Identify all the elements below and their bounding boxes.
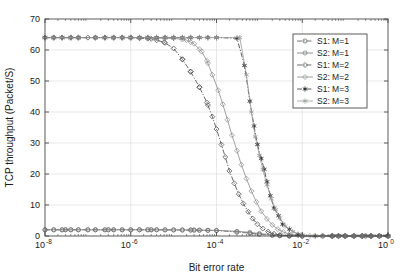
y-tick-label: 10 bbox=[30, 200, 40, 210]
y-tick-label: 20 bbox=[30, 169, 40, 179]
x-tick-exponent: -6 bbox=[132, 238, 138, 245]
y-tick-label: 60 bbox=[30, 45, 40, 55]
legend: S1: M=1S2: M=1S1: M=2S2: M=2S1: M=3S2: M… bbox=[293, 34, 367, 108]
y-axis-label: TCP throughput (Packet/S) bbox=[4, 68, 15, 188]
data-point-marker bbox=[269, 196, 274, 202]
data-point-marker bbox=[253, 134, 258, 140]
x-tick-exponent: -8 bbox=[46, 238, 52, 245]
data-point-marker bbox=[197, 85, 202, 90]
x-tick-label: 10-8 bbox=[35, 238, 52, 250]
x-axis-label: Bit error rate bbox=[189, 262, 245, 273]
data-point-marker bbox=[197, 85, 202, 90]
x-tick-label: 100 bbox=[378, 238, 394, 250]
data-point-marker bbox=[244, 72, 249, 78]
x-tick-exponent: -2 bbox=[303, 238, 309, 245]
x-tick-label: 10-2 bbox=[292, 238, 309, 250]
y-tick-label: 30 bbox=[30, 138, 40, 148]
legend-label: S2: M=3 bbox=[317, 96, 349, 106]
star-core bbox=[304, 88, 307, 91]
legend-label: S1: M=2 bbox=[317, 60, 349, 70]
x-tick-exponent: 0 bbox=[390, 238, 394, 245]
x-tick-base: 10 bbox=[206, 240, 216, 250]
legend-label: S1: M=1 bbox=[317, 36, 349, 46]
x-tick-base: 10 bbox=[292, 240, 302, 250]
y-tick-label: 70 bbox=[30, 14, 40, 24]
x-tick-base: 10 bbox=[121, 240, 131, 250]
chart-canvas: 01020304050607010-810-610-410-2100Bit er… bbox=[0, 0, 407, 276]
x-tick-base: 10 bbox=[378, 240, 388, 250]
x-tick-label: 10-4 bbox=[206, 238, 223, 250]
data-point-marker bbox=[205, 103, 210, 108]
x-tick-base: 10 bbox=[35, 240, 45, 250]
legend-label: S1: M=3 bbox=[317, 84, 349, 94]
x-tick-exponent: -4 bbox=[218, 238, 224, 245]
y-tick-label: 40 bbox=[30, 107, 40, 117]
legend-label: S2: M=2 bbox=[317, 72, 349, 82]
x-tick-label: 10-6 bbox=[121, 238, 138, 250]
chart-figure: 01020304050607010-810-610-410-2100Bit er… bbox=[0, 0, 407, 276]
legend-label: S2: M=1 bbox=[317, 48, 349, 58]
y-tick-label: 50 bbox=[30, 76, 40, 86]
